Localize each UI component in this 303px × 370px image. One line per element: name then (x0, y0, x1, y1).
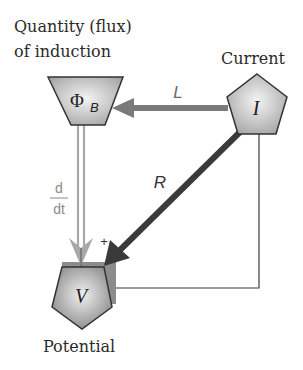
inductance-arrow (112, 98, 228, 118)
derivative-arrow (69, 125, 93, 268)
current-symbol: I (252, 97, 261, 119)
circuit-diagram: Φ B I V L R d dt + (0, 0, 303, 370)
derivative-denominator: dt (53, 201, 65, 217)
plus-sign: + (100, 234, 108, 249)
derivative-numerator: d (55, 180, 63, 196)
potential-node: V (52, 267, 112, 329)
derivative-label: d dt (50, 180, 68, 217)
resistance-arrow (104, 132, 240, 266)
flux-node: Φ B (48, 77, 123, 125)
resistance-label: R (154, 173, 166, 192)
inductance-label: L (173, 83, 182, 102)
feedback-wire (112, 133, 259, 288)
flux-symbol: Φ (70, 90, 84, 111)
current-node: I (227, 74, 287, 134)
flux-subscript: B (90, 100, 99, 115)
